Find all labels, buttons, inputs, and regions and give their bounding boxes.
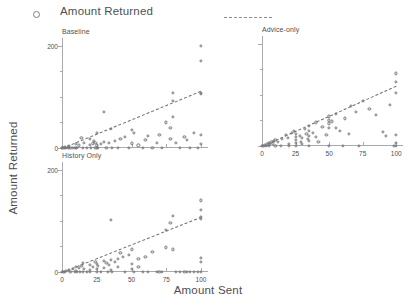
- data-point: [395, 144, 398, 147]
- x-tick-label: 50: [326, 150, 333, 157]
- data-point: [188, 146, 191, 149]
- data-point: [314, 135, 317, 138]
- data-point: [123, 135, 126, 138]
- data-point: [110, 270, 113, 273]
- data-point: [349, 104, 352, 107]
- data-point: [141, 270, 144, 273]
- data-point: [76, 146, 79, 149]
- data-point: [311, 131, 314, 134]
- dashed-fit-line-icon: [224, 17, 272, 18]
- data-point: [105, 146, 108, 149]
- data-point: [354, 111, 357, 114]
- x-tick-label: 0: [260, 150, 264, 157]
- legend: Amount Returned: [0, 0, 416, 28]
- y-tick-minor: [60, 71, 63, 72]
- data-point: [174, 270, 177, 273]
- x-axis-title: Amount Sent: [0, 284, 416, 296]
- data-point: [127, 253, 130, 256]
- data-point: [307, 129, 310, 132]
- plot-area-baseline: 0200: [62, 38, 208, 148]
- data-point: [108, 141, 111, 144]
- y-tick-label: 200: [42, 166, 58, 173]
- data-point: [197, 146, 200, 149]
- data-point: [155, 141, 158, 144]
- data-point: [199, 270, 202, 273]
- data-point: [141, 146, 144, 149]
- data-point: [119, 251, 122, 254]
- data-point: [172, 214, 175, 217]
- panel-title-advice-only: Advice-only: [262, 26, 299, 33]
- y-tick: [58, 170, 62, 171]
- data-point: [286, 136, 289, 139]
- data-point: [361, 99, 364, 102]
- data-point: [281, 137, 284, 140]
- data-point: [174, 141, 177, 144]
- x-tick: [166, 144, 167, 148]
- y-axis-title: Amount Returned: [7, 108, 19, 228]
- data-point: [137, 265, 140, 268]
- data-point: [122, 255, 125, 258]
- panel-advice-only: Advice-only0255075100: [262, 26, 403, 146]
- regression-line: [62, 91, 201, 149]
- data-point: [368, 108, 371, 111]
- data-point: [165, 246, 168, 249]
- data-point: [199, 142, 202, 145]
- data-point: [116, 146, 119, 149]
- data-point: [199, 260, 202, 263]
- y-tick-minor: [260, 69, 263, 70]
- data-point: [147, 270, 150, 273]
- data-point: [199, 93, 202, 96]
- panel-title-baseline: Baseline: [62, 28, 90, 35]
- data-point: [179, 270, 182, 273]
- data-point: [144, 138, 147, 141]
- data-point: [199, 133, 202, 136]
- x-tick-label: 100: [391, 150, 402, 157]
- y-tick-minor: [260, 95, 263, 96]
- data-point: [169, 137, 172, 140]
- data-point: [307, 139, 310, 142]
- data-point: [328, 115, 331, 118]
- y-tick-minor: [60, 221, 63, 222]
- data-point: [375, 114, 378, 117]
- y-tick: [58, 46, 62, 47]
- data-point: [307, 144, 310, 147]
- x-tick-label: 75: [163, 276, 170, 283]
- data-point: [110, 146, 113, 149]
- data-point: [102, 111, 105, 114]
- data-point: [108, 263, 111, 266]
- data-point: [172, 116, 175, 119]
- data-point: [81, 270, 84, 273]
- data-point: [199, 44, 202, 47]
- x-axis-line: [262, 145, 403, 146]
- y-tick-label: 0: [42, 269, 58, 276]
- data-point: [188, 270, 191, 273]
- data-point: [151, 146, 154, 149]
- y-tick-minor: [60, 195, 63, 196]
- data-point: [279, 144, 282, 147]
- data-point: [88, 137, 91, 140]
- data-point: [97, 146, 100, 149]
- y-tick-minor: [60, 122, 63, 123]
- data-point: [193, 131, 196, 134]
- y-tick-minor: [260, 120, 263, 121]
- y-tick-label: 200: [42, 42, 58, 49]
- data-point: [301, 136, 304, 139]
- data-point: [90, 146, 93, 149]
- legend-title: Amount Returned: [60, 5, 153, 17]
- data-point: [83, 141, 86, 144]
- data-point: [395, 91, 398, 94]
- data-point: [334, 126, 337, 129]
- data-point: [119, 137, 122, 140]
- data-point: [172, 248, 175, 251]
- data-point: [151, 250, 154, 253]
- data-point: [395, 72, 398, 75]
- data-point: [338, 129, 341, 132]
- data-point: [303, 127, 306, 130]
- y-axis-line: [62, 38, 63, 148]
- data-point: [344, 117, 347, 120]
- data-point: [144, 255, 147, 258]
- x-tick-label: 0: [60, 276, 64, 283]
- data-point: [137, 257, 140, 260]
- data-point: [123, 270, 126, 273]
- data-point: [384, 134, 387, 137]
